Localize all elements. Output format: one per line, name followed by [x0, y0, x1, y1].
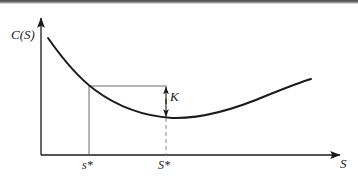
tick-label-reorder-point: s* — [82, 159, 93, 171]
tick-label-order-up-to-level: S* — [158, 159, 170, 171]
cost-curve-path — [48, 38, 311, 118]
cost-curve-figure: C(S) S s* S* K — [0, 0, 358, 185]
fixed-cost-label: K — [170, 90, 179, 103]
x-axis-label: S — [340, 157, 347, 170]
plot-area — [0, 0, 358, 185]
y-axis-label: C(S) — [11, 28, 35, 41]
